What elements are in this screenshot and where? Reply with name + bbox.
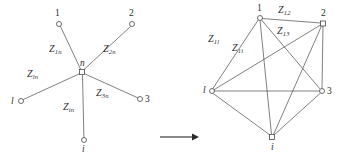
- edge-1-l-right: [213, 20, 259, 90]
- edge-label-z1i: Z1i: [232, 43, 243, 53]
- node-3-right: [320, 89, 325, 94]
- right-mesh-edges: [213, 19, 324, 136]
- edge-2-3-right: [322, 26, 323, 89]
- edge-label-z3n-sub: 3n: [102, 92, 109, 99]
- node-label-1-right: 1: [257, 4, 262, 14]
- edge-label-zln: Zln: [27, 69, 38, 79]
- edge-label-z2n-sub: 2n: [109, 48, 116, 55]
- edge-3-i-right: [274, 93, 321, 135]
- edge-label-z1i-base: Z: [232, 42, 238, 53]
- edge-label-z12: Z12: [278, 5, 290, 15]
- edge-label-z13: Z13: [277, 26, 289, 36]
- edge-label-z2n-base: Z: [103, 43, 109, 54]
- edge-label-z1l-sub: 1l: [214, 38, 219, 45]
- edge-label-zln-sub: ln: [33, 73, 38, 80]
- edge-1-n: [61, 27, 82, 71]
- edge-label-z1l-base: Z: [208, 33, 214, 44]
- node-label-l-right: l: [203, 86, 206, 96]
- node-i-right: [270, 135, 275, 140]
- edge-l-i-right: [213, 93, 271, 135]
- diagram-canvas: [0, 0, 345, 159]
- right-mesh-nodes: [210, 16, 326, 140]
- node-l-right: [210, 89, 215, 94]
- node-label-2-left: 2: [129, 9, 134, 19]
- edge-label-z1l: Z1l: [208, 34, 219, 44]
- node-label-3-left: 3: [145, 95, 150, 105]
- edge-label-z1n-base: Z: [49, 43, 55, 54]
- left-star-edges: [20, 27, 142, 142]
- node-2-right: [321, 21, 326, 26]
- edge-label-zin-sub: in: [69, 106, 74, 113]
- left-star-nodes: [19, 22, 143, 143]
- edge-label-z3n-base: Z: [96, 87, 102, 98]
- edge-2-l-right: [214, 25, 321, 90]
- edge-label-zin: Zin: [63, 102, 74, 112]
- edge-3-n: [84, 74, 142, 100]
- edge-label-z1n: Z1n: [49, 44, 61, 54]
- edge-1-2-right: [262, 19, 321, 24]
- edge-label-zln-base: Z: [27, 68, 33, 79]
- node-i-left: [82, 138, 87, 143]
- node-label-3-right: 3: [327, 87, 332, 97]
- edge-i-n: [83, 75, 85, 142]
- node-2-left: [130, 22, 135, 27]
- node-3-left: [138, 97, 143, 102]
- node-1-left: [57, 22, 62, 27]
- node-label-n-center: n: [80, 59, 85, 69]
- node-label-i-right: i: [271, 143, 274, 153]
- node-label-1-left: 1: [55, 9, 60, 19]
- edge-label-zin-base: Z: [63, 101, 69, 112]
- node-1-right: [258, 16, 263, 21]
- arrow-head: [192, 134, 199, 141]
- node-label-l-left: l: [11, 97, 14, 107]
- edge-label-z13-base: Z: [277, 25, 283, 36]
- figure-container: 1 2 3 l i n Z1n Z2n Zln Z3n Zin 1 2 3 l …: [0, 0, 345, 159]
- edge-label-z12-base: Z: [278, 4, 284, 15]
- edge-1-i-right: [260, 21, 272, 135]
- edge-label-z2n: Z2n: [103, 44, 115, 54]
- edge-label-z13-sub: 13: [283, 30, 290, 37]
- edge-label-z1n-sub: 1n: [55, 48, 62, 55]
- edge-label-z12-sub: 12: [284, 9, 291, 16]
- node-l-left: [19, 99, 24, 104]
- node-label-2-right: 2: [321, 9, 326, 19]
- transformation-arrow: [160, 134, 199, 141]
- node-n-center: [80, 70, 85, 75]
- node-label-i-left: i: [82, 145, 85, 155]
- edge-label-z3n: Z3n: [96, 88, 108, 98]
- edge-label-z1i-sub: 1i: [238, 47, 243, 54]
